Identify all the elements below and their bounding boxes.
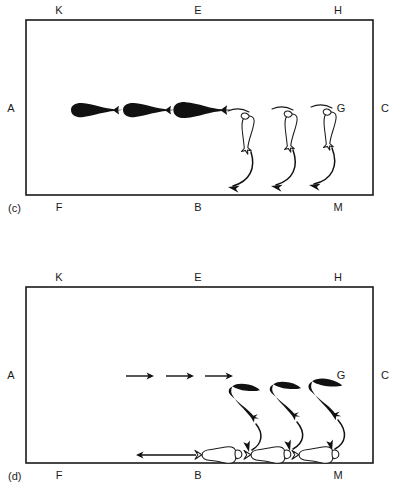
panel-tag-d: (d) [8, 470, 21, 482]
white-fish-c-1 [237, 113, 256, 155]
black-fish-c-1 [71, 103, 123, 117]
black-fish-d-2 [270, 382, 301, 421]
label-d-inner-right: G [337, 369, 346, 381]
straight-arrow-d-bottom [136, 452, 196, 459]
label-d-top-left: K [55, 271, 63, 283]
white-fish-d-3 [292, 447, 339, 463]
trajectory-arrow-d-1 [252, 424, 261, 450]
label-c-left: A [7, 102, 15, 114]
panel-c: K E H A C G F B M (c) [7, 4, 389, 214]
label-d-bottom-left: F [56, 469, 63, 481]
label-c-right: C [381, 102, 389, 114]
figure-root: K E H A C G F B M (c) [0, 0, 396, 490]
black-fish-c-2 [123, 103, 175, 117]
trajectory-arrow-d-2 [293, 422, 303, 449]
label-d-bottom-center: B [194, 469, 201, 481]
trajectory-arrow-d-3 [335, 420, 344, 449]
straight-arrow-d-2 [166, 373, 194, 380]
trajectory-arrow-c-1 [233, 152, 253, 186]
label-d-top-center: E [194, 271, 201, 283]
label-c-top-center: E [194, 4, 201, 16]
black-fish-d-3 [308, 379, 342, 421]
figure-canvas: K E H A C G F B M (c) [0, 0, 396, 490]
panel-tag-c: (c) [8, 202, 21, 214]
lead-arc-c-1 [228, 109, 249, 112]
label-d-left: A [7, 369, 15, 381]
lead-arc-c-3 [311, 105, 332, 108]
label-c-bottom-right: M [333, 201, 342, 213]
white-fish-c-2 [280, 111, 299, 153]
label-c-inner-right: G [337, 102, 346, 114]
panel-d: K E H A C G F B M (d) [7, 271, 389, 482]
label-c-top-right: H [334, 4, 342, 16]
tank-rect-d [26, 287, 373, 463]
white-fish-c-3 [319, 109, 338, 151]
trajectory-arrow-c-3 [314, 148, 335, 184]
trajectory-arrow-c-2 [276, 150, 295, 185]
black-fish-c-3 [173, 102, 231, 118]
straight-arrow-d-3 [205, 373, 233, 380]
lead-arc-c-2 [272, 107, 293, 110]
label-c-top-left: K [55, 4, 63, 16]
label-c-bottom-center: B [194, 201, 201, 213]
white-fish-d-1 [195, 447, 242, 463]
label-d-right: C [381, 369, 389, 381]
straight-arrow-d-1 [126, 373, 154, 380]
white-fish-d-2 [244, 447, 291, 463]
label-d-top-right: H [334, 271, 342, 283]
label-d-bottom-right: M [333, 469, 342, 481]
label-c-bottom-left: F [56, 201, 63, 213]
black-fish-d-1 [229, 384, 260, 423]
